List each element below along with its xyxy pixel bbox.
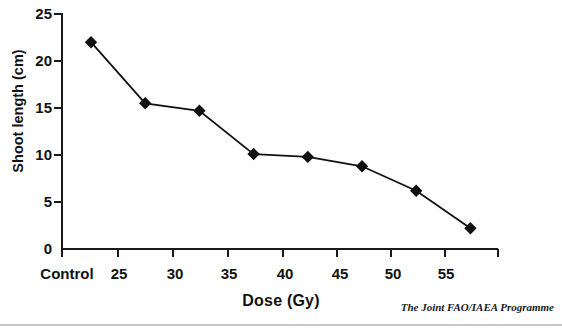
series-line <box>91 42 470 228</box>
chart-page: Shoot length (cm) 25 20 15 10 5 0 <box>0 0 562 329</box>
bottom-divider <box>0 324 562 326</box>
series-markers <box>85 36 477 235</box>
data-point-marker <box>410 185 422 197</box>
data-point-marker <box>464 222 476 234</box>
data-series-layer <box>0 0 562 329</box>
data-point-marker <box>356 160 368 172</box>
footer-credit: The Joint FAO/IAEA Programme <box>401 301 554 313</box>
data-point-marker <box>302 151 314 163</box>
